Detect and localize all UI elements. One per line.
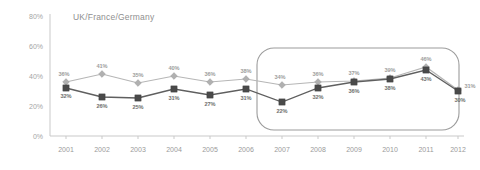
data-point-marker [171,86,177,92]
data-label: 32% [312,94,323,100]
lower-series-markers [63,67,461,105]
data-point-marker [207,79,214,86]
data-label: 46% [420,56,431,62]
data-label: 36% [348,88,359,94]
data-label: 30% [454,97,465,103]
y-tick-label: 40% [29,73,43,80]
data-point-marker [99,71,106,78]
x-tick-label: 2002 [94,146,110,153]
x-tick-label: 2007 [274,146,290,153]
data-point-marker [207,92,213,98]
data-label: 35% [132,72,143,78]
x-axis-labels: 2001 2002 2003 2004 2005 2006 2007 2008 … [58,146,466,153]
upper-series-data-labels: 36% 41% 35% 40% 36% 38% 34% 36% 37% 39% … [58,56,475,89]
x-tick-label: 2004 [166,146,182,153]
data-label: 32% [60,93,71,99]
data-point-marker [243,76,250,83]
data-point-marker [315,85,321,91]
data-label: 34% [274,74,285,80]
y-tick-label: 0% [33,133,43,140]
data-point-marker [135,80,142,87]
data-label: 31% [168,95,179,101]
upper-series-line [66,67,458,90]
data-label: 41% [96,63,107,69]
x-tick-label: 2003 [130,146,146,153]
data-point-marker [63,79,70,86]
data-label: 22% [276,108,287,114]
x-tick-label: 2011 [418,146,433,153]
data-point-marker [423,67,429,73]
data-label: 40% [168,65,179,71]
data-point-marker [315,79,322,86]
x-tick-label: 2008 [310,146,326,153]
data-point-marker [99,94,105,100]
data-label: 36% [312,71,323,77]
data-point-marker [351,79,357,85]
data-label: 36% [58,71,69,77]
data-label: 37% [348,70,359,76]
y-tick-label: 60% [29,43,43,50]
data-point-marker [63,85,69,91]
data-label: 38% [240,68,251,74]
chart-title: UK/France/Germany [73,12,155,22]
data-label: 25% [132,104,143,110]
data-label: 27% [204,101,215,107]
data-label: 26% [96,103,107,109]
x-tick-label: 2006 [238,146,254,153]
data-point-marker [171,73,178,80]
x-tick-label: 2012 [450,146,466,153]
x-tick-label: 2001 [58,146,74,153]
data-point-marker [387,76,393,82]
x-tick-label: 2009 [346,146,362,153]
data-label: 31% [464,83,475,89]
data-point-marker [279,82,286,89]
data-label: 43% [420,76,431,82]
y-tick-label: 20% [29,103,43,110]
y-tick-label: 80% [29,13,43,20]
chart-container: UK/France/Germany 80% 60% 40% 20% 0% [0,0,480,170]
data-label: 36% [204,71,215,77]
x-tick-label: 2010 [382,146,398,153]
data-point-marker [455,88,461,94]
data-point-marker [243,86,249,92]
data-label: 38% [384,85,395,91]
y-axis-labels: 80% 60% 40% 20% 0% [29,13,43,140]
x-tick-label: 2005 [202,146,218,153]
data-label: 31% [240,95,251,101]
data-point-marker [279,99,285,105]
data-label: 39% [384,67,395,73]
data-point-marker [135,95,141,101]
line-chart: UK/France/Germany 80% 60% 40% 20% 0% [0,0,480,170]
